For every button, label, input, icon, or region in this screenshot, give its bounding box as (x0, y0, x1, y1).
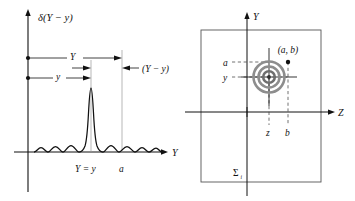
aperture-plane-panel: Y Z (185, 0, 355, 201)
dimension-difference: (Y − y) (122, 64, 169, 75)
coord-a-label: a (223, 58, 228, 68)
delta-function-svg: δ(Y − y) Y Y y (0, 0, 190, 201)
a-tick-label: a (119, 164, 124, 174)
point-label: (a, b) (278, 45, 299, 56)
aperture-square (201, 30, 321, 182)
point-spread-rings (254, 62, 285, 93)
plane-label-subscript: i (241, 174, 243, 180)
horizontal-axis (185, 109, 335, 114)
vertical-axis (244, 12, 249, 196)
dimension-y-label: y (55, 72, 61, 82)
plane-label: Σ i (233, 168, 243, 180)
peak-tick-label: Y = y (75, 164, 96, 174)
x-axis-label: Y (172, 147, 179, 158)
dimension-y: y (26, 70, 91, 82)
plane-label-sigma: Σ (233, 168, 239, 178)
ideal-image-point (286, 60, 290, 64)
vertical-axis-label: Y (253, 11, 260, 22)
coord-y-label: y (222, 73, 228, 83)
dimension-difference-label: (Y − y) (142, 64, 169, 75)
dimension-Y: Y (26, 50, 122, 62)
delta-curve (34, 88, 162, 152)
horizontal-axis-label: Z (338, 107, 344, 118)
aperture-plane-svg: Y Z (185, 0, 355, 201)
dimension-inner-arrow (72, 65, 91, 70)
coord-b-label: b (285, 128, 290, 138)
delta-axis-label: δ(Y − y) (38, 12, 73, 24)
vertical-axis (25, 9, 30, 192)
coord-z-label: z (265, 128, 270, 138)
figure-container: δ(Y − y) Y Y y (0, 0, 355, 201)
delta-function-panel: δ(Y − y) Y Y y (0, 0, 190, 201)
